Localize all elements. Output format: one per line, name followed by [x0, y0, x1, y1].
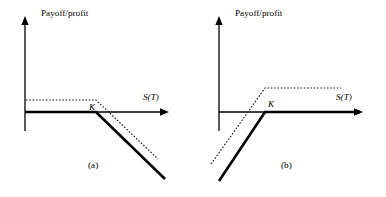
payoff-profit-figure: Payoff/profit S(T) K (a) Payoff/profit S…	[0, 0, 386, 197]
panel-a-x-axis-label: S(T)	[143, 92, 159, 102]
panel-b-y-axis-arrow-icon	[215, 16, 222, 25]
panel-a-y-axis-arrow-icon	[21, 16, 28, 25]
panel-a: Payoff/profit S(T) K (a)	[21, 8, 169, 179]
panel-b: Payoff/profit S(T) K (b)	[211, 8, 363, 181]
panel-a-strike-label: K	[88, 102, 96, 112]
figure-canvas: Payoff/profit S(T) K (a) Payoff/profit S…	[0, 0, 386, 197]
panel-b-y-axis-label: Payoff/profit	[235, 8, 283, 18]
panel-b-x-axis-label: S(T)	[336, 92, 352, 102]
panel-a-caption: (a)	[88, 160, 98, 170]
panel-b-strike-label: K	[267, 99, 275, 109]
panel-b-profit-curve	[211, 88, 341, 164]
panel-a-x-axis-arrow-icon	[160, 108, 169, 115]
panel-b-caption: (b)	[281, 160, 292, 170]
panel-a-y-axis-label: Payoff/profit	[41, 8, 89, 18]
